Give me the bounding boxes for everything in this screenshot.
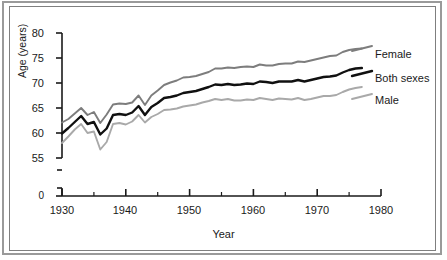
y-tick-label-70: 70 xyxy=(22,77,44,89)
chart-plot-area: 80 75 70 65 60 55 0 1930 1940 1950 1960 … xyxy=(0,0,447,260)
y-tick-label-65: 65 xyxy=(22,102,44,114)
line-chart-svg xyxy=(0,0,447,260)
x-tick-label-1930: 1930 xyxy=(42,204,82,216)
series-label-male: Male xyxy=(375,94,399,106)
data-series-group xyxy=(62,49,362,150)
legend-stub-male xyxy=(352,94,372,99)
series-line-male xyxy=(62,87,362,150)
x-tick-label-1960: 1960 xyxy=(233,204,273,216)
axis-lines-group xyxy=(56,33,381,196)
series-label-female: Female xyxy=(375,48,412,60)
y-tick-label-60: 60 xyxy=(22,127,44,139)
y-tick-label-0: 0 xyxy=(22,190,44,201)
legend-line-stubs-group xyxy=(352,46,372,99)
x-axis-title: Year xyxy=(0,228,447,240)
y-tick-label-55: 55 xyxy=(22,152,44,164)
figure-root: 80 75 70 65 60 55 0 1930 1940 1950 1960 … xyxy=(0,0,447,260)
x-tick-label-1980: 1980 xyxy=(361,204,401,216)
x-tick-label-1940: 1940 xyxy=(105,204,145,216)
x-tick-label-1970: 1970 xyxy=(297,204,337,216)
y-axis-title: Age (years) xyxy=(16,64,28,78)
x-tick-label-1950: 1950 xyxy=(169,204,209,216)
series-line-both-sexes xyxy=(62,68,362,135)
legend-stub-both-sexes xyxy=(352,71,372,76)
series-label-both-sexes: Both sexes xyxy=(375,72,429,84)
